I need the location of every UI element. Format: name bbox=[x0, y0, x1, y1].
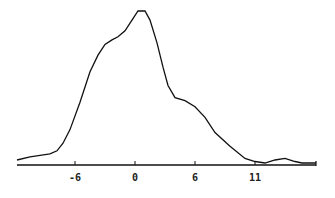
x-tick-label: 11 bbox=[249, 172, 261, 183]
density-chart: -60611 bbox=[0, 0, 335, 198]
x-tick-label: 0 bbox=[132, 172, 138, 183]
density-curve bbox=[17, 11, 316, 163]
x-tick-label: 6 bbox=[192, 172, 198, 183]
x-tick-label: -6 bbox=[69, 172, 81, 183]
